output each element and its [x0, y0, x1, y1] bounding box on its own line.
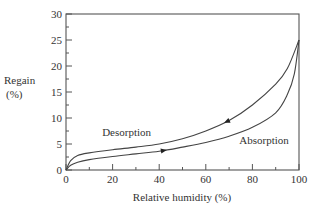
x-tick-label: 80 — [247, 173, 259, 185]
absorption-curve — [66, 40, 299, 170]
x-tick-label: 40 — [154, 173, 166, 185]
desorption-label: Desorption — [102, 126, 151, 138]
x-axis-ticks: 020406080100 — [63, 164, 308, 185]
y-axis-ticks: 051015202530 — [51, 8, 72, 176]
x-tick-label: 60 — [200, 173, 212, 185]
x-tick-label: 0 — [63, 173, 69, 185]
annotations: DesorptionAbsorption — [102, 126, 289, 146]
x-tick-label: 100 — [291, 173, 308, 185]
x-tick-label: 20 — [107, 173, 119, 185]
y-tick-label: 5 — [57, 138, 63, 150]
y-tick-label: 25 — [51, 34, 63, 46]
y-axis-label-line1: Regain — [4, 74, 36, 86]
y-tick-label: 20 — [51, 60, 63, 72]
x-axis-label: Relative humidity (%) — [133, 191, 232, 204]
y-tick-label: 0 — [57, 164, 63, 176]
curves — [66, 40, 299, 170]
sorption-hysteresis-chart: 051015202530 020406080100 DesorptionAbso… — [0, 0, 322, 207]
y-tick-label: 10 — [51, 112, 63, 124]
desorption-curve — [66, 40, 299, 170]
absorption-label: Absorption — [239, 134, 289, 146]
y-axis-label-line2: (%) — [6, 88, 23, 101]
y-tick-label: 15 — [51, 86, 63, 98]
absorption-arrow-icon — [160, 148, 166, 153]
y-tick-label: 30 — [51, 8, 63, 20]
